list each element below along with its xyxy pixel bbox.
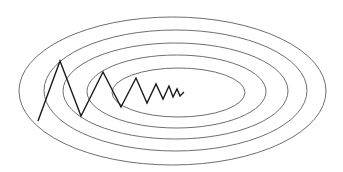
contour-ellipse-1	[19, 17, 326, 165]
gradient-descent-path	[38, 61, 184, 121]
contour-diagram	[0, 0, 343, 172]
contour-lines	[19, 17, 326, 165]
